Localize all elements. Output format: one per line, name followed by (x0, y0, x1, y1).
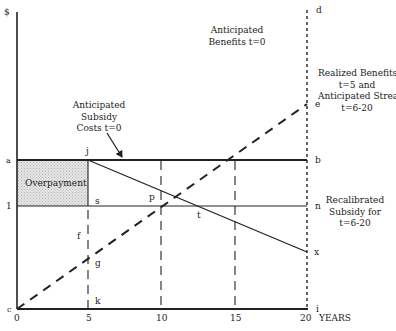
point-label-t: t (197, 210, 201, 221)
realized-benefits-line-1: Realized Benefits (318, 68, 396, 80)
realized-benefits-line-3: Anticipated Stream (318, 91, 396, 103)
realized-benefits-line-4: t=6-20 (318, 103, 396, 115)
point-label-b: b (315, 155, 321, 166)
x-tick-0: 0 (14, 313, 20, 324)
anticipated-subsidy-line-1: Anticipated (68, 100, 130, 112)
point-label-p: p (149, 192, 155, 203)
subsidy-arrow (107, 133, 122, 157)
point-label-a: a (6, 155, 11, 166)
x-tick-10: 10 (156, 313, 167, 324)
recalibrated-subsidy-line-1: Recalibrated (322, 195, 388, 207)
x-tick-5: 5 (86, 313, 92, 324)
point-label-j: j (86, 146, 89, 157)
point-label-c: c (7, 304, 11, 315)
point-label-g: g (95, 258, 101, 269)
x-axis-title: YEARS (319, 313, 351, 324)
anticipated-subsidy-note: Anticipated Subsidy Costs t=0 (68, 100, 130, 135)
point-label-x: x (314, 247, 319, 258)
recalibrated-subsidy-line-3: t=6-20 (322, 218, 388, 230)
recalibrated-subsidy-line-2: Subsidy for (322, 207, 388, 219)
point-label-f: f (77, 231, 80, 242)
diagram-canvas (0, 0, 396, 331)
anticipated-benefits-note: Anticipated Benefits t=0 (205, 25, 269, 48)
x-tick-15: 15 (230, 313, 241, 324)
recalibrated-subsidy-note: Recalibrated Subsidy for t=6-20 (322, 195, 388, 230)
realized-benefits-note: Realized Benefits t=5 and Anticipated St… (318, 68, 396, 114)
anticipated-subsidy-line-3: Costs t=0 (68, 123, 130, 135)
point-label-s: s (95, 196, 100, 207)
y-axis-symbol: $ (4, 7, 10, 18)
realized-benefits-line-2: t=5 and (318, 80, 396, 92)
point-label-i: i (316, 304, 319, 315)
anticipated-subsidy-line-2: Subsidy (68, 112, 130, 124)
point-label-d: d (316, 5, 322, 16)
point-label-l: 1 (6, 201, 12, 212)
point-label-n: n (315, 201, 321, 212)
point-label-k: k (95, 296, 100, 307)
anticipated-benefits-line-2: Benefits t=0 (205, 37, 269, 49)
x-tick-20: 20 (300, 313, 311, 324)
anticipated-benefits-line-1: Anticipated (205, 25, 269, 37)
overpayment-label: Overpayment (25, 178, 87, 189)
